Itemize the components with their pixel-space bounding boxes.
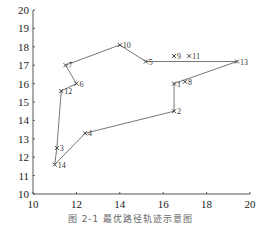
x-tick-label: 16 [158,198,170,210]
point-13: 13 [235,58,248,67]
point-7: 7 [64,61,73,70]
point-10: 10 [118,41,131,50]
point-2: 2 [172,107,181,116]
point-label: 4 [88,129,92,138]
x-tick-label: 14 [114,198,126,210]
y-tick-label: 16 [18,78,30,90]
point-label: 7 [69,61,73,70]
route-line [55,45,237,165]
point-6: 6 [74,80,83,89]
y-tick-label: 15 [18,96,30,108]
y-tick-label: 19 [18,22,30,34]
point-label: 3 [60,144,64,153]
axes: 1012141618201011121314151617181920 [18,4,256,210]
point-label: 8 [188,78,192,87]
route-path [55,45,237,165]
point-label: 1 [177,80,181,89]
x-tick-label: 20 [245,198,257,210]
point-label: 2 [177,107,181,116]
y-tick-label: 17 [18,59,30,71]
y-tick-label: 13 [18,133,30,145]
route-chart: 1012141618201011121314151617181920 12345… [0,0,261,210]
figure-caption: 图 2-1 最优路径轨迹示意图 [0,212,261,225]
point-label: 9 [177,52,181,61]
y-tick-label: 14 [18,114,30,126]
y-tick-label: 11 [18,170,29,182]
y-tick-label: 12 [18,151,29,163]
point-4: 4 [83,129,92,138]
x-tick-label: 10 [28,198,40,210]
point-label: 11 [192,52,200,61]
y-tick-label: 20 [18,4,30,16]
point-label: 5 [149,58,153,67]
x-tick-label: 12 [71,198,82,210]
data-points: 1234567891011121314 [53,41,248,170]
x-tick-label: 18 [201,198,213,210]
point-11: 11 [187,52,200,61]
point-label: 12 [64,87,72,96]
point-label: 6 [79,80,83,89]
point-label: 14 [58,161,66,170]
point-label: 10 [123,41,131,50]
point-9: 9 [172,52,181,61]
point-1: 1 [172,80,181,89]
point-label: 13 [240,58,248,67]
point-5: 5 [144,58,153,67]
point-8: 8 [183,78,192,87]
y-tick-label: 18 [18,41,30,53]
y-tick-label: 10 [18,188,30,200]
